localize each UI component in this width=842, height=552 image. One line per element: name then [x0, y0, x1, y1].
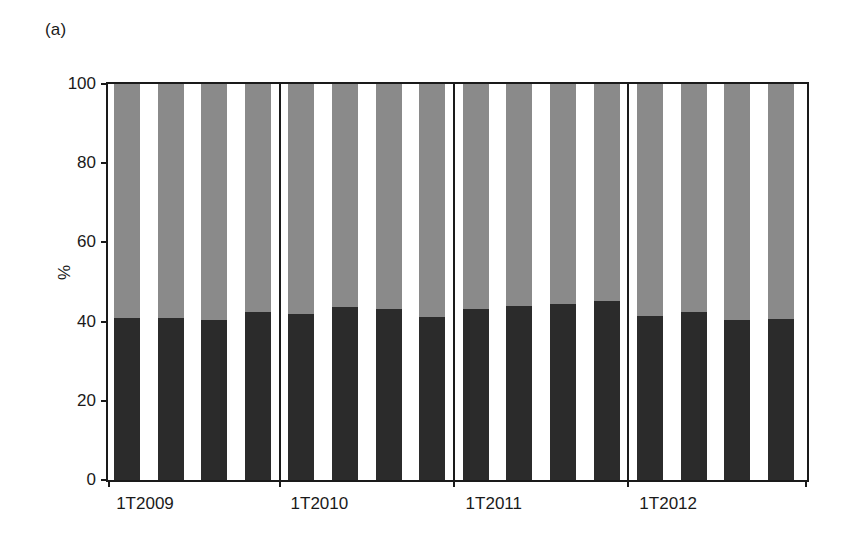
x-tick-label: 1T2012 — [639, 494, 697, 514]
x-tick-mark — [108, 480, 110, 487]
group-separator — [627, 84, 629, 480]
bar-segment-lower — [681, 312, 707, 480]
y-axis-label: % — [55, 265, 75, 280]
bar-segment-upper — [768, 84, 794, 319]
y-tick-label: 20 — [52, 391, 108, 411]
bar — [506, 84, 532, 480]
bar — [419, 84, 445, 480]
x-tick-mark — [279, 480, 281, 487]
bar-segment-lower — [594, 301, 620, 480]
bar-segment-upper — [332, 84, 358, 307]
bar — [158, 84, 184, 480]
bar-segment-lower — [637, 316, 663, 480]
bar — [768, 84, 794, 480]
bar-segment-lower — [376, 309, 402, 480]
bar-segment-upper — [419, 84, 445, 317]
group-separator — [279, 84, 281, 480]
y-tick-label: 60 — [52, 232, 108, 252]
y-tick-mark — [101, 321, 108, 323]
x-tick-label: 1T2011 — [466, 494, 522, 514]
bar — [681, 84, 707, 480]
y-tick-label: 40 — [52, 312, 108, 332]
y-tick-mark — [101, 241, 108, 243]
bar — [201, 84, 227, 480]
bar-segment-upper — [724, 84, 750, 320]
bar — [114, 84, 140, 480]
bar-segment-upper — [201, 84, 227, 320]
bar-segment-lower — [332, 307, 358, 480]
bar-segment-upper — [114, 84, 140, 318]
y-tick-mark — [101, 479, 108, 481]
bar-segment-upper — [506, 84, 532, 306]
bar — [550, 84, 576, 480]
bar-segment-lower — [550, 304, 576, 480]
bar-series — [108, 84, 807, 480]
x-tick-label: 1T2010 — [291, 494, 349, 514]
bar-segment-lower — [245, 312, 271, 480]
bar-segment-upper — [550, 84, 576, 304]
bar-segment-lower — [288, 314, 314, 480]
bar-segment-upper — [637, 84, 663, 316]
bar-segment-upper — [288, 84, 314, 314]
group-separator — [453, 84, 455, 480]
x-tick-mark — [805, 480, 807, 487]
bar-segment-lower — [506, 306, 532, 480]
bar-segment-upper — [245, 84, 271, 312]
y-tick-mark — [101, 162, 108, 164]
bar — [376, 84, 402, 480]
bar — [724, 84, 750, 480]
x-tick-mark — [627, 480, 629, 487]
y-tick-label: 100 — [52, 74, 108, 94]
bar-segment-lower — [724, 320, 750, 480]
bar-segment-upper — [463, 84, 489, 309]
bar-segment-lower — [463, 309, 489, 480]
bar-segment-upper — [158, 84, 184, 318]
bar — [332, 84, 358, 480]
y-tick-label: 80 — [52, 153, 108, 173]
figure-panel-a: (a) % 020406080100 1T20091T20101T20111T2… — [0, 0, 842, 552]
y-tick-mark — [101, 83, 108, 85]
plot-area: 020406080100 — [106, 82, 809, 482]
bar — [637, 84, 663, 480]
y-tick-mark — [101, 400, 108, 402]
bar — [288, 84, 314, 480]
x-tick-mark — [453, 480, 455, 487]
x-tick-label: 1T2009 — [116, 494, 174, 514]
bar-segment-lower — [419, 317, 445, 480]
bar-segment-lower — [201, 320, 227, 480]
bar-segment-upper — [376, 84, 402, 309]
bar-segment-upper — [594, 84, 620, 301]
bar-segment-upper — [681, 84, 707, 312]
y-tick-label: 0 — [52, 470, 108, 490]
bar — [245, 84, 271, 480]
panel-label: (a) — [45, 20, 66, 40]
bar — [463, 84, 489, 480]
bar-segment-lower — [768, 319, 794, 480]
bar — [594, 84, 620, 480]
bar-segment-lower — [158, 318, 184, 480]
bar-segment-lower — [114, 318, 140, 480]
